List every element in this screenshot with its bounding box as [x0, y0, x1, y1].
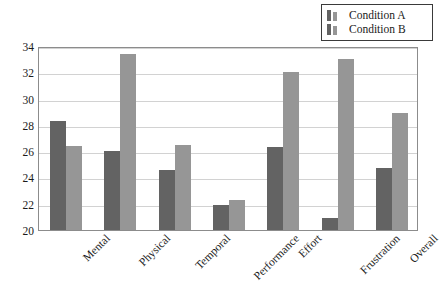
- bar: [376, 168, 392, 230]
- legend-entry-condition-a: Condition A: [327, 8, 427, 22]
- bars-layer: [39, 48, 417, 230]
- legend-swatch-condition-a: [327, 10, 344, 21]
- y-tick-label: 30: [0, 94, 34, 106]
- y-axis: 2022242628303234: [0, 47, 34, 231]
- bar-group: [322, 48, 354, 230]
- bar-group: [213, 48, 245, 230]
- x-tick-label: Performance: [251, 232, 301, 282]
- bar: [120, 54, 136, 230]
- bar: [213, 205, 229, 230]
- y-tick-label: 20: [0, 225, 34, 237]
- bar-group: [159, 48, 191, 230]
- x-axis: MentalPhysicalTemporalPerformanceEffortF…: [38, 232, 418, 301]
- y-tick-label: 24: [0, 172, 34, 184]
- bar: [283, 72, 299, 230]
- x-tick-label: Effort: [296, 232, 324, 260]
- bar: [267, 147, 283, 230]
- y-tick-label: 22: [0, 199, 34, 211]
- y-tick-label: 26: [0, 146, 34, 158]
- plot-area: [38, 47, 418, 231]
- legend-entry-condition-b: Condition B: [327, 22, 427, 36]
- bar: [322, 218, 338, 230]
- y-tick-label: 32: [0, 67, 34, 79]
- legend-label-condition-a: Condition A: [349, 9, 406, 21]
- bar: [392, 113, 408, 230]
- bar: [104, 151, 120, 230]
- legend-label-condition-b: Condition B: [349, 23, 406, 35]
- bar-group: [50, 48, 82, 230]
- bar: [229, 200, 245, 230]
- bar: [175, 145, 191, 230]
- x-tick-label: Overall: [407, 232, 440, 265]
- y-tick-label: 34: [0, 41, 34, 53]
- x-tick-label: Temporal: [193, 232, 233, 272]
- x-tick-label: Frustration: [357, 232, 401, 276]
- bar-group: [376, 48, 408, 230]
- bar-group: [267, 48, 299, 230]
- bar-group: [104, 48, 136, 230]
- bar-chart: Condition A Condition B 2022242628303234…: [0, 0, 440, 301]
- x-tick-label: Mental: [81, 232, 113, 264]
- bar: [338, 59, 354, 230]
- bar: [159, 170, 175, 230]
- bar: [50, 121, 66, 230]
- y-tick-label: 28: [0, 120, 34, 132]
- x-tick-label: Physical: [137, 232, 173, 268]
- bar: [66, 146, 82, 230]
- legend-swatch-condition-b: [327, 24, 344, 35]
- chart-legend: Condition A Condition B: [321, 4, 433, 41]
